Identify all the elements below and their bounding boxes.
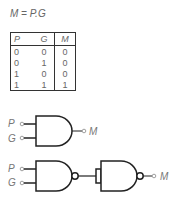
circuit-diagrams: P G M P G M: [0, 0, 179, 198]
input-label-p: P: [8, 118, 15, 129]
output-label-m: M: [89, 126, 98, 137]
input-terminal-g: [20, 181, 24, 185]
input-terminal-p: [20, 167, 24, 171]
input-label-g: G: [8, 133, 16, 144]
input-terminal-p: [20, 122, 24, 126]
input-terminal-g: [20, 136, 24, 140]
inversion-bubble: [72, 173, 78, 179]
nand-gate-1: [36, 161, 72, 191]
output-terminal: [152, 174, 156, 178]
and-gate: [36, 116, 72, 146]
output-terminal: [82, 129, 86, 133]
nand-circuit: P G M: [8, 161, 169, 191]
nand-gate-2: [101, 161, 137, 191]
and-circuit: P G M: [8, 116, 98, 146]
input-label-g: G: [8, 177, 16, 188]
output-label-m: M: [160, 171, 169, 182]
inversion-bubble: [137, 173, 143, 179]
input-label-p: P: [8, 163, 15, 174]
